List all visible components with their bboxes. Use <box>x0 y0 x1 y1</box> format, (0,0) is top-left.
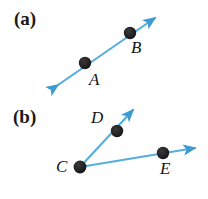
point-label-e: E <box>160 159 170 179</box>
point-e-dot <box>157 147 169 159</box>
point-label-d: D <box>91 108 103 128</box>
point-label-a: A <box>89 70 99 90</box>
ray-cd <box>80 110 133 167</box>
point-c-dot <box>74 161 87 174</box>
point-label-c: C <box>56 157 67 177</box>
panel-label-a: (a) <box>14 8 36 30</box>
ray-ce <box>80 148 195 167</box>
panel-label-b: (b) <box>13 106 36 128</box>
point-a-dot <box>79 57 91 69</box>
point-label-b: B <box>131 38 141 58</box>
point-d-dot <box>111 125 123 137</box>
geometry-figure: (a) (b) A B C D E <box>0 0 208 199</box>
